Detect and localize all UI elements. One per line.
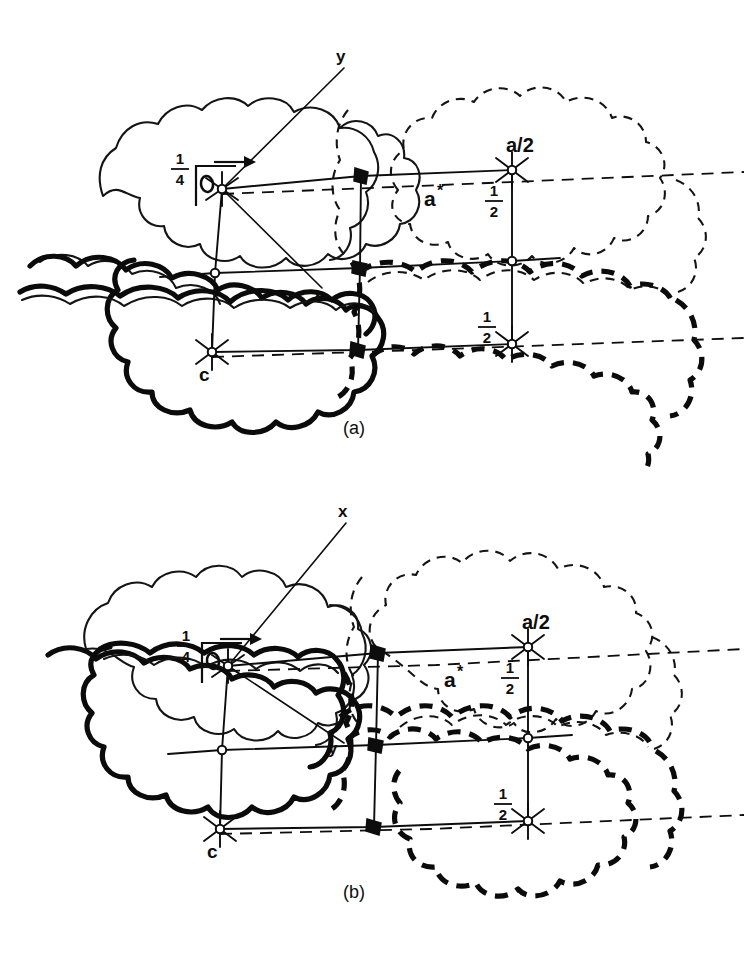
outline-thick-dashed-lower-right: [372, 346, 660, 470]
outline-thick-dashed-lower-right: [348, 729, 636, 896]
half-top-numerator: 1: [506, 659, 514, 676]
node-left-middle: [211, 269, 219, 277]
panel-caption-a: (a): [343, 418, 365, 438]
astar-label: a: [424, 187, 436, 210]
outline-thick-dashed-descender: [336, 262, 360, 398]
astar-axis-bottom: [212, 338, 744, 357]
node-mid-top: [354, 168, 368, 184]
axis-label-lower: y: [328, 739, 338, 758]
outline-thin-dashed-descender: [333, 110, 349, 256]
fraction-denominator: 4: [176, 171, 185, 188]
node-right-middle: [524, 734, 532, 742]
outline-thick-dashed-mid-band: [360, 261, 672, 302]
fraction-half-top: 1 2: [485, 182, 503, 220]
node-mid-bottom: [366, 819, 381, 835]
astar-superscript: *: [437, 182, 444, 199]
half-top-denominator: 2: [490, 203, 498, 220]
axis-label-lower: x: [313, 285, 323, 304]
quarter-height-marker: [196, 156, 256, 206]
half-bottom-denominator: 2: [499, 806, 507, 823]
axis-upper-line: [222, 68, 344, 189]
panel-a: 1 4 1 2 1 2 y x a * a/2 c (a): [0, 0, 752, 470]
a-half-label: a/2: [522, 611, 550, 633]
axis-lower-line: [228, 666, 344, 743]
axis-label-upper: x: [338, 502, 348, 521]
node-center-middle: [368, 738, 383, 753]
fraction-numerator: 1: [182, 627, 190, 644]
outline-thick-solid-lower: [30, 256, 384, 432]
node-mid-top: [370, 645, 385, 661]
figure-root: 1 4 1 2 1 2 y x a * a/2 c (a): [0, 0, 752, 954]
panel-caption-b: (b): [343, 882, 365, 902]
fraction-half-top: 1 2: [501, 659, 519, 697]
half-top-denominator: 2: [506, 680, 514, 697]
node-right-middle: [508, 257, 516, 265]
outline-thin-dashed-upper-right: [370, 551, 653, 733]
fraction-half-bottom: 1 2: [494, 785, 512, 823]
half-bottom-denominator: 2: [483, 329, 491, 346]
outline-thick-dashed-right-arc: [650, 751, 682, 867]
outline-thin-dashed-right-arc: [676, 180, 706, 292]
outline-thick-dashed-right-arc: [670, 300, 702, 416]
fraction-one-quarter: 1 4: [171, 150, 189, 188]
axis-upper-line: [228, 523, 346, 666]
axis-label-upper: y: [336, 47, 346, 66]
astar-label: a: [444, 668, 456, 691]
node-left-middle: [218, 746, 226, 754]
half-top-numerator: 1: [490, 182, 498, 199]
outline-thin-solid-upper: [100, 98, 420, 267]
fraction-numerator: 1: [176, 150, 184, 167]
c-vector-label: c: [207, 841, 218, 862]
half-bottom-numerator: 1: [483, 308, 491, 325]
astar-superscript: *: [457, 663, 464, 680]
half-bottom-numerator: 1: [499, 785, 507, 802]
fraction-half-bottom: 1 2: [478, 308, 496, 346]
fraction-denominator: 4: [182, 648, 191, 665]
a-half-label: a/2: [506, 134, 534, 156]
node-center-middle: [352, 261, 367, 276]
c-vector-label: c: [199, 364, 210, 385]
panel-b: 1 4 1 2 1 2 x y a * a/2 c (b): [0, 477, 752, 954]
astar-axis-bottom: [220, 815, 744, 834]
